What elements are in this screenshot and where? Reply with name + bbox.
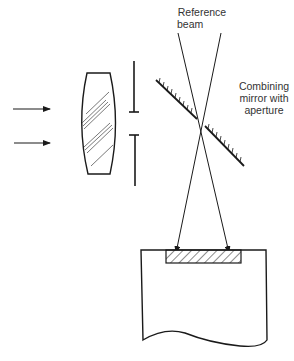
aperture-stop: [129, 61, 139, 186]
holography-setup-diagram: [0, 0, 294, 361]
combining-mirror: [156, 78, 244, 166]
reference-beam-label: Reference beam: [172, 6, 232, 30]
lens: [82, 73, 116, 174]
hologram-plate: [166, 250, 241, 263]
recording-medium: [141, 250, 267, 346]
label-line: aperture: [234, 104, 294, 116]
label-line: Reference: [172, 6, 232, 18]
incident-light-arrows: [13, 109, 50, 143]
combining-mirror-label: Combining mirror with aperture: [234, 80, 294, 116]
label-line: mirror with: [234, 92, 294, 104]
label-line: Combining: [234, 80, 294, 92]
label-line: beam: [172, 18, 232, 30]
